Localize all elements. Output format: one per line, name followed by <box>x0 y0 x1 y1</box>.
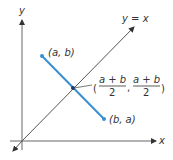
point-b-a-label: (b, a) <box>109 114 136 125</box>
y-axis-label: y <box>18 5 26 16</box>
point-a-b-label: (a, b) <box>48 47 75 58</box>
midpoint-label: ( a + b 2 , a + b 2 ) <box>93 74 165 98</box>
line-y-equals-x-tail <box>13 141 22 151</box>
line-label: y = x <box>121 13 149 24</box>
point-b-a <box>102 117 106 121</box>
svg-text:): ) <box>161 83 165 94</box>
diagram: y x y = x (a, b) (b, a) ( a + b 2 , a + … <box>0 0 173 160</box>
svg-text:2: 2 <box>143 87 149 98</box>
svg-text:2: 2 <box>109 87 115 98</box>
svg-text:a + b: a + b <box>99 74 126 85</box>
x-axis-label: x <box>158 135 165 146</box>
point-a-b <box>40 54 44 58</box>
svg-text:(: ( <box>93 83 97 94</box>
svg-text:,: , <box>127 82 130 93</box>
svg-text:a + b: a + b <box>133 74 160 85</box>
